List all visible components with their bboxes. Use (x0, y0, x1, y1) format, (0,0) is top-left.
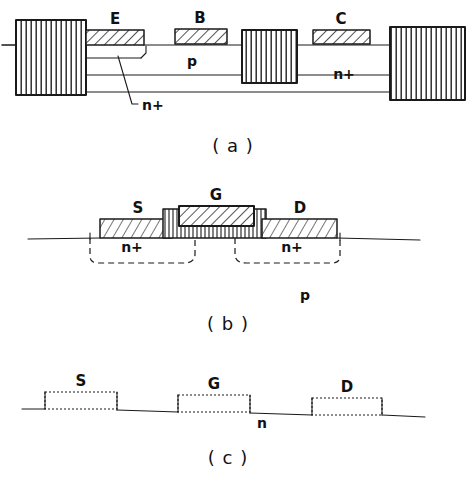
panel-c-surface-line-4 (382, 415, 425, 417)
panel-c-caption: ( c ) (208, 447, 248, 468)
panel-c-surface-line-2 (117, 410, 178, 412)
right-isolation-block (390, 27, 465, 100)
collector-contact-label: C (335, 10, 346, 28)
source-contact-label: S (133, 199, 144, 217)
gate-contact[interactable] (178, 395, 250, 413)
gate-contact[interactable] (179, 206, 254, 226)
drain-contact[interactable] (312, 398, 382, 415)
emitter-contact[interactable] (86, 30, 144, 45)
panel-b-surface-line-left (28, 238, 100, 239)
left-isolation-block (16, 20, 86, 95)
source-contact[interactable] (100, 219, 172, 238)
device-cross-section-figure: E B p C n+ (0, 0, 470, 478)
panel-a-buried-line-1b (141, 46, 146, 58)
source-well-label: n+ (121, 239, 143, 255)
drain-contact[interactable] (262, 219, 337, 238)
gate-contact-label: G (210, 186, 222, 204)
middle-isolation-block (242, 30, 297, 83)
panel-b-caption: ( b ) (207, 313, 249, 334)
drain-well-label: n+ (281, 239, 303, 255)
panel-a-caption: ( a ) (212, 135, 254, 156)
panel-c: S G D n ( c ) (22, 372, 425, 468)
emitter-region-label: n+ (142, 97, 164, 113)
base-region-label: p (187, 53, 197, 69)
base-contact-label: B (194, 9, 205, 27)
emitter-contact-label: E (110, 10, 120, 28)
panel-b: S G D n+ n+ (28, 186, 420, 334)
drain-contact-label: D (294, 199, 306, 217)
source-contact[interactable] (45, 392, 117, 410)
substrate-label-b: p (300, 287, 310, 303)
collector-contact[interactable] (313, 30, 370, 44)
substrate-label-c: n (257, 415, 267, 431)
panel-a-n-plus-leader (118, 56, 138, 104)
source-contact-label: S (76, 372, 87, 390)
gate-contact-label: G (208, 375, 220, 393)
base-contact[interactable] (175, 29, 227, 44)
drain-contact-label: D (341, 378, 353, 396)
collector-region-label: n+ (333, 66, 355, 82)
figure-root: E B p C n+ (0, 0, 470, 478)
panel-b-surface-line-right (337, 238, 420, 240)
panel-a: E B p C n+ (2, 9, 465, 156)
